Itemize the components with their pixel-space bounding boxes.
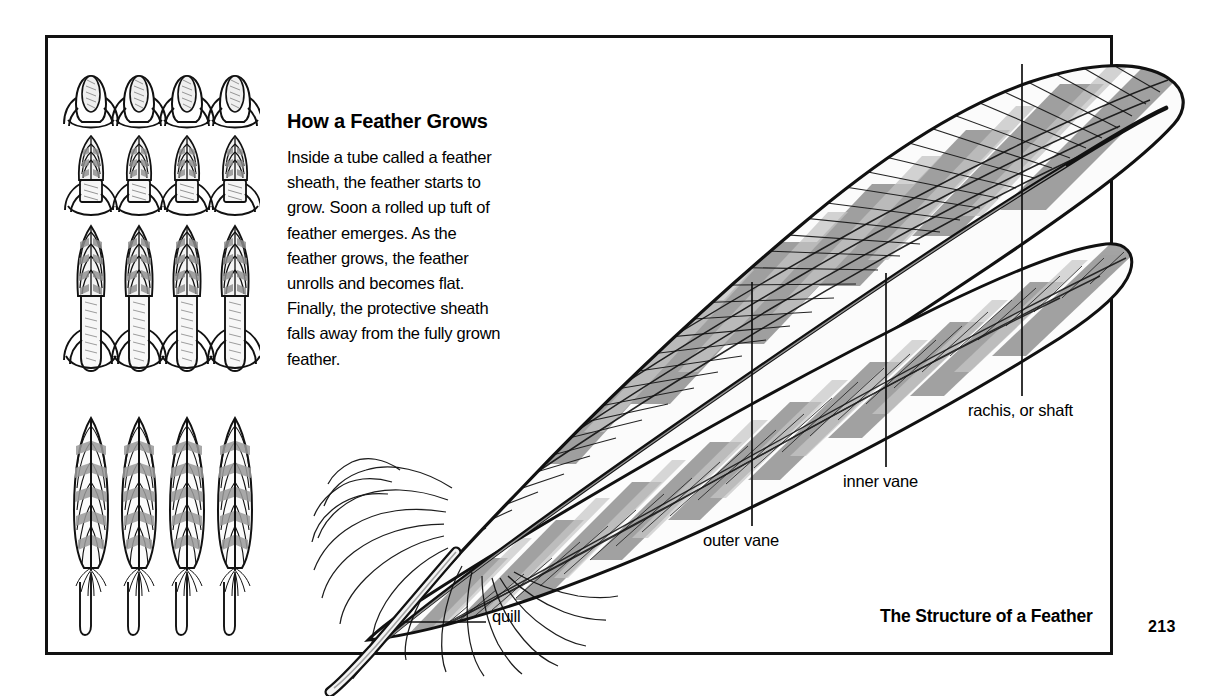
- label-quill: quill: [492, 607, 520, 626]
- growth-stage-panel: [60, 58, 260, 638]
- growth-body-text: Inside a tube called a feather sheath, t…: [287, 145, 503, 372]
- label-inner-vane: inner vane: [843, 472, 918, 491]
- page-number: 213: [1148, 618, 1176, 636]
- label-rachis-or-shaft: rachis, or shaft: [968, 401, 1073, 420]
- stage-row-4: [74, 418, 252, 635]
- figure-title: The Structure of a Feather: [880, 606, 1093, 627]
- stage-row-1: [64, 76, 260, 128]
- stage-row-2: [65, 136, 260, 215]
- label-outer-vane: outer vane: [703, 531, 779, 550]
- growth-heading: How a Feather Grows: [287, 110, 503, 132]
- how-a-feather-grows-section: How a Feather Grows Inside a tube called…: [287, 110, 503, 372]
- stage-row-3: [64, 226, 260, 371]
